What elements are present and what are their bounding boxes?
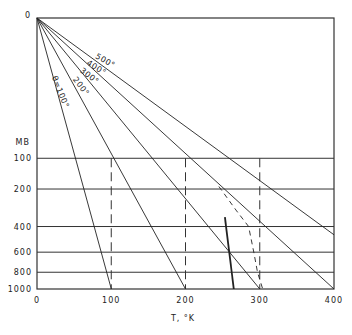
thermodynamic-diagram: 500°400°300°200°θ=100°010020030040010020… xyxy=(0,0,352,335)
x-tick-label: 0 xyxy=(34,296,40,305)
x-tick-label: 400 xyxy=(325,296,343,305)
y-tick-label: 200 xyxy=(14,185,32,194)
series-300- xyxy=(37,18,260,289)
y-tick-label: 600 xyxy=(14,248,32,257)
x-tick-label: 300 xyxy=(251,296,269,305)
y-tick-label: 400 xyxy=(14,223,32,232)
y-tick-label: 100 xyxy=(14,154,32,163)
y-tick-label: 1000 xyxy=(8,285,32,294)
y-tick-label: 800 xyxy=(14,268,32,277)
chart-area: 500°400°300°200°θ=100°010020030040010020… xyxy=(0,0,352,335)
x-axis-label: T, °K xyxy=(170,314,195,323)
y-axis-label: MB xyxy=(16,138,30,147)
series-dashed-curve xyxy=(219,187,263,290)
series-bold-line xyxy=(225,217,234,289)
y-top-label: 0 xyxy=(25,11,31,20)
x-tick-label: 100 xyxy=(102,296,120,305)
x-tick-label: 200 xyxy=(176,296,194,305)
